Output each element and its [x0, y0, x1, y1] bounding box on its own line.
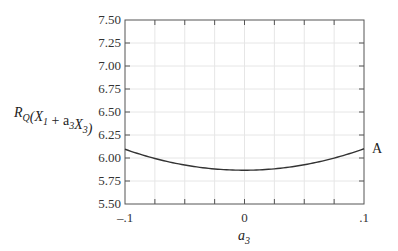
y-tick-label: 6.00 [98, 150, 121, 165]
x-tick-labels: –.10.1 [116, 210, 369, 225]
x-tick-label: –.1 [116, 210, 133, 225]
y-tick-label: 7.00 [98, 58, 121, 73]
y-tick-label: 7.50 [98, 12, 121, 27]
series-group: A [125, 141, 383, 170]
y-tick-label: 6.25 [98, 127, 121, 142]
x-axis-label: a3 [238, 228, 250, 246]
y-tick-label: 5.50 [98, 196, 121, 211]
y-tick-labels: 5.505.756.006.256.506.757.007.257.50 [98, 12, 121, 211]
y-tick-label: 7.25 [98, 35, 121, 50]
y-label-part: (X [30, 109, 44, 125]
y-label-part: X [73, 117, 83, 132]
y-tick-label: 5.75 [98, 173, 121, 188]
x-label-subscript: 3 [244, 235, 250, 246]
x-tick-label: .1 [359, 210, 369, 225]
x-tick-label: 0 [241, 210, 248, 225]
y-label-part: R [13, 105, 23, 120]
y-axis-label: RQ(X1 + a3X3) [13, 105, 93, 137]
x-label-base: a [238, 228, 245, 243]
y-label-part: ) [87, 121, 93, 137]
series-label: A [372, 141, 383, 156]
y-label-part: + a [48, 113, 70, 128]
grid [125, 20, 364, 204]
y-tick-label: 6.50 [98, 104, 121, 119]
chart: A 5.505.756.006.256.506.757.007.257.50 –… [0, 0, 398, 251]
y-tick-label: 6.75 [98, 81, 121, 96]
